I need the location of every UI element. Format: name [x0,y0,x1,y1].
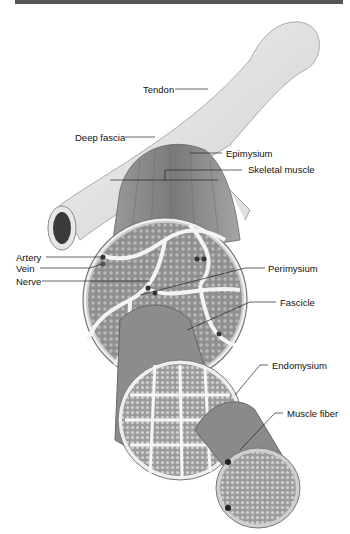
muscle-structure-diagram: Tendon Deep fascia Epimysium Skeletal mu… [0,0,350,534]
label-tendon: Tendon [143,84,174,95]
label-fascicle: Fascicle [280,297,315,308]
label-epimysium: Epimysium [226,148,272,159]
label-artery: Artery [16,252,41,263]
label-perimysium: Perimysium [268,263,318,274]
label-deep-fascia: Deep fascia [75,132,125,143]
label-endomysium: Endomysium [272,360,327,371]
label-nerve: Nerve [16,276,41,287]
label-skeletal-muscle: Skeletal muscle [248,164,315,175]
label-muscle-fiber: Muscle fiber [287,408,338,419]
label-vein: Vein [16,263,35,274]
muscle-fiber-cross-section [216,448,300,528]
